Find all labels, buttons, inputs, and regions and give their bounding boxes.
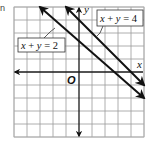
axes bbox=[15, 8, 143, 136]
x-axis-label: x bbox=[136, 58, 142, 70]
origin-label: O bbox=[67, 74, 76, 86]
line-label-2: x + y = 4 bbox=[97, 10, 143, 36]
line-label-1: x + y = 2 bbox=[18, 28, 65, 52]
label-pointer bbox=[97, 26, 103, 36]
coordinate-plane: x + y = 2x + y = 4 x y O bbox=[0, 0, 150, 149]
y-axis-label: y bbox=[83, 3, 89, 15]
label-text: x + y = 2 bbox=[20, 40, 58, 51]
label-text: x + y = 4 bbox=[99, 13, 138, 24]
